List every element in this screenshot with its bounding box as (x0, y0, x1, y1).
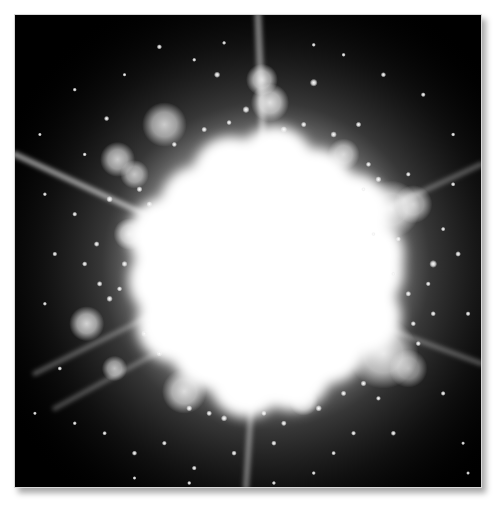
star-point (261, 411, 266, 416)
star-point (426, 281, 431, 286)
star-point (356, 122, 362, 128)
star-point (375, 176, 381, 182)
star-point (411, 321, 416, 326)
star-clump (142, 102, 187, 147)
star-point (360, 380, 366, 386)
star-point (231, 450, 236, 455)
star-point (157, 44, 162, 49)
star-point (341, 53, 345, 57)
star-point (455, 251, 461, 257)
star-point (43, 192, 47, 196)
star-point (406, 172, 411, 177)
star-point (192, 466, 197, 471)
star-point (187, 481, 191, 485)
star-point (441, 227, 446, 232)
star-point (162, 441, 167, 446)
star-point (331, 451, 336, 456)
star-point (391, 271, 396, 276)
star-clump (251, 84, 289, 122)
star-point (83, 152, 87, 156)
star-point (52, 251, 57, 256)
star-point (371, 232, 376, 237)
star-point (242, 106, 249, 113)
star-clump (120, 160, 149, 189)
star-point (451, 132, 455, 136)
star-point (466, 311, 471, 316)
star-point (441, 391, 446, 396)
star-point (201, 127, 207, 133)
star-clump (102, 356, 127, 381)
star-point (405, 291, 411, 297)
star-point (133, 476, 137, 480)
star-point (366, 162, 371, 167)
star-point (72, 212, 77, 217)
star-point (315, 405, 321, 411)
star-point (97, 281, 103, 287)
star-point (421, 92, 426, 97)
star-point (376, 396, 381, 401)
star-point (272, 481, 276, 485)
star-point (361, 187, 366, 192)
star-point (132, 450, 137, 455)
star-point (431, 311, 436, 316)
star-point (416, 341, 421, 346)
star-point (466, 471, 470, 475)
star-point (351, 431, 356, 436)
star-point (206, 410, 212, 416)
star-point (172, 142, 177, 147)
star-point (214, 72, 220, 78)
star-point (73, 421, 77, 425)
star-point (429, 260, 437, 268)
star-point (281, 420, 287, 426)
star-point (157, 351, 163, 357)
star-point (104, 116, 109, 121)
star-point (391, 431, 396, 436)
star-point (33, 411, 37, 415)
star-point (396, 237, 401, 242)
star-point (281, 126, 287, 132)
star-clump (394, 185, 432, 223)
star-point (94, 241, 100, 247)
star-point (222, 41, 226, 45)
star-cluster-image (15, 15, 481, 487)
star-point (312, 471, 316, 475)
star-point (271, 440, 276, 445)
star-point (121, 261, 127, 267)
star-point (117, 286, 122, 291)
star-point (192, 58, 196, 62)
star-clump (69, 306, 104, 341)
star-point (141, 330, 147, 336)
star-point (312, 43, 316, 47)
star-point (147, 201, 153, 207)
star-point (341, 391, 347, 397)
star-point (186, 405, 192, 411)
star-point (226, 120, 231, 125)
star-point (106, 196, 112, 202)
star-point (102, 431, 107, 436)
star-point (57, 366, 62, 371)
star-point (330, 131, 336, 137)
star-point (221, 415, 227, 421)
star-point (123, 73, 127, 77)
star-point (461, 441, 465, 445)
star-clump (389, 349, 427, 387)
star-point (38, 133, 42, 137)
star-point (73, 88, 77, 92)
star-point (136, 186, 142, 192)
star-point (82, 261, 87, 266)
star-point (451, 182, 456, 187)
astronomy-image-frame (14, 14, 482, 488)
star-point (310, 79, 318, 87)
star-point (43, 302, 47, 306)
star-point (301, 122, 307, 128)
star-point (381, 72, 386, 77)
star-point (106, 296, 112, 302)
